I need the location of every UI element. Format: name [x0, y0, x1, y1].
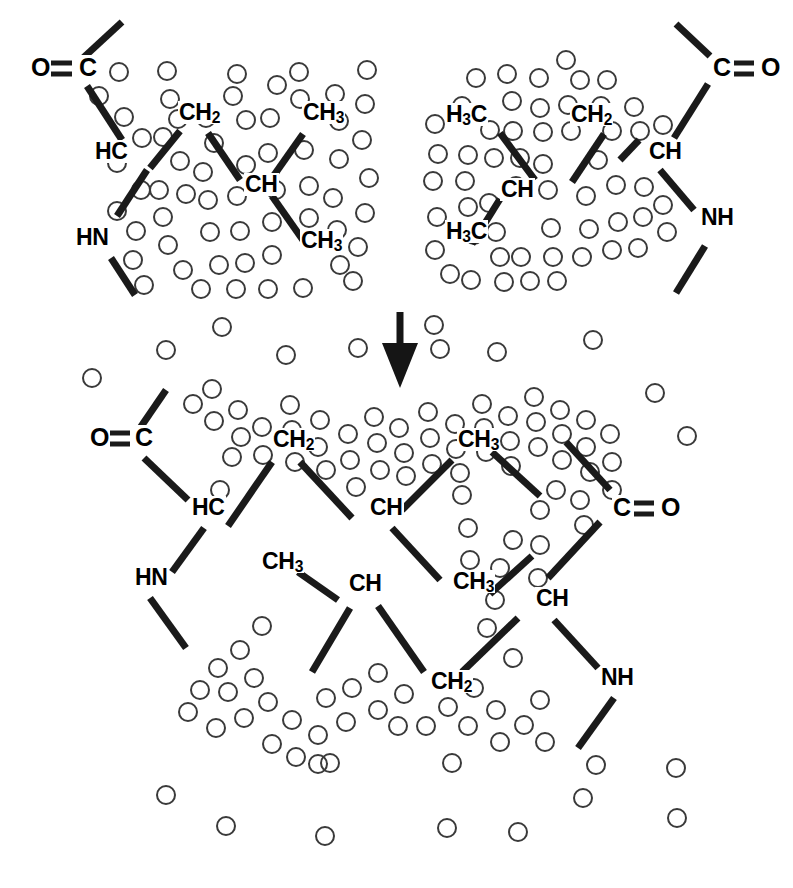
atom-label-CH2a-bottom: CH2 — [272, 428, 315, 451]
atom-label-HN-bottom: HN — [134, 566, 169, 589]
atom-label-CH2b-bottom: CH2 — [430, 670, 473, 693]
atom-label-HC-top-left: HC — [94, 140, 129, 163]
atom-label-C-top-left: C — [78, 55, 98, 80]
atom-label-O-bottom-right: O — [660, 495, 681, 520]
atom-label-CH3b-top-left: CH3 — [300, 229, 343, 252]
atom-label-CHc-bottom: CH — [535, 587, 570, 610]
atom-label-HN-top-left: HN — [75, 226, 110, 249]
atom-label-CH-top-right: CH — [648, 140, 683, 163]
atom-label-CH3b-bottom: CH3 — [452, 570, 495, 593]
atom-label-CH3c-bottom: CH3 — [261, 550, 304, 573]
atom-label-O-top-right: O — [760, 55, 781, 80]
atom-label-NH-top-right: NH — [700, 206, 735, 229]
atom-label-C-bottom-left: C — [134, 425, 154, 450]
atom-label-CH2-top-right: CH2 — [570, 103, 613, 126]
reaction-arrow — [382, 312, 418, 388]
atom-label-CH3a-bottom: CH3 — [457, 428, 500, 451]
atom-label-CHb-bottom: CH — [348, 572, 383, 595]
water-cluster-top-left — [90, 61, 378, 298]
atom-label-CHa-bottom: CH — [369, 496, 404, 519]
water-cluster-bottom — [83, 316, 696, 845]
atom-label-HC-bottom: HC — [191, 496, 226, 519]
atom-label-NH-bottom: NH — [600, 666, 635, 689]
atom-label-O-top-left: O — [30, 55, 51, 80]
atom-label-H3Cb-top-right: H3C — [445, 220, 488, 243]
atom-label-CH-top-left: CH — [244, 173, 279, 196]
atom-label-O-bottom-left: O — [89, 425, 110, 450]
atom-label-CH3a-top-left: CH3 — [302, 101, 345, 124]
diagram-canvas: O C HC HN CH2 CH3 CH CH3 C O CH NH H3C C… — [0, 0, 793, 888]
water-cluster-top-right — [424, 51, 676, 291]
diagram-vector-layer — [0, 0, 793, 888]
atom-label-CH2-top-left: CH2 — [178, 101, 221, 124]
atom-label-H3Ca-top-right: H3C — [445, 103, 488, 126]
atom-label-C-bottom-right: C — [612, 495, 632, 520]
atom-label-CH-mid-top-right: CH — [500, 178, 535, 201]
atom-label-C-top-right: C — [712, 55, 732, 80]
